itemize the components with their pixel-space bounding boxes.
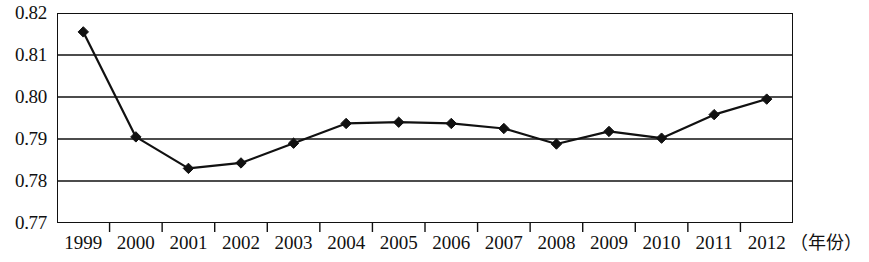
data-point-marker xyxy=(78,27,88,37)
data-point-marker xyxy=(446,118,456,128)
y-tick-label: 0.81 xyxy=(15,45,47,64)
y-tick-label: 0.79 xyxy=(15,129,47,148)
data-point-marker xyxy=(551,139,561,149)
x-tick-label: 2012 xyxy=(748,232,786,254)
x-tick-label: 2007 xyxy=(485,232,523,254)
y-tick-label: 0.82 xyxy=(15,3,47,22)
data-point-marker xyxy=(183,163,193,173)
data-point-marker xyxy=(131,132,141,142)
x-tick-label: 2008 xyxy=(537,232,575,254)
y-tick-label: 0.77 xyxy=(15,213,47,232)
data-point-marker xyxy=(762,94,772,104)
plot-area xyxy=(57,13,793,223)
x-tick-label: 2005 xyxy=(380,232,418,254)
data-point-marker xyxy=(604,126,614,136)
x-tick-label: 2010 xyxy=(643,232,681,254)
series-line xyxy=(83,32,766,169)
x-tick-label: 1999 xyxy=(64,232,102,254)
y-tick-label: 0.80 xyxy=(15,87,47,106)
x-tick-label: 2004 xyxy=(327,232,365,254)
x-tick-label: 2000 xyxy=(117,232,155,254)
x-tick-label: 2001 xyxy=(169,232,207,254)
x-tick-label: 2009 xyxy=(590,232,628,254)
data-point-marker xyxy=(499,123,509,133)
y-tick-label: 0.78 xyxy=(15,171,47,190)
x-axis-label-group: 1999200020012002200320042005200620072008… xyxy=(57,232,793,260)
x-axis-unit-label: （年份） xyxy=(790,232,862,254)
x-tick-label: 2003 xyxy=(275,232,313,254)
data-point-marker xyxy=(709,109,719,119)
y-axis-label-group: 0.820.810.800.790.780.77 xyxy=(0,0,52,240)
data-point-marker xyxy=(656,133,666,143)
x-tick-label: 2006 xyxy=(432,232,470,254)
data-point-marker xyxy=(341,118,351,128)
data-point-marker xyxy=(394,117,404,127)
x-tick-label: 2002 xyxy=(222,232,260,254)
data-point-marker xyxy=(236,158,246,168)
x-tick-label: 2011 xyxy=(695,232,732,254)
line-chart: 0.820.810.800.790.780.77 199920002001200… xyxy=(0,0,869,262)
series-layer xyxy=(57,13,793,223)
